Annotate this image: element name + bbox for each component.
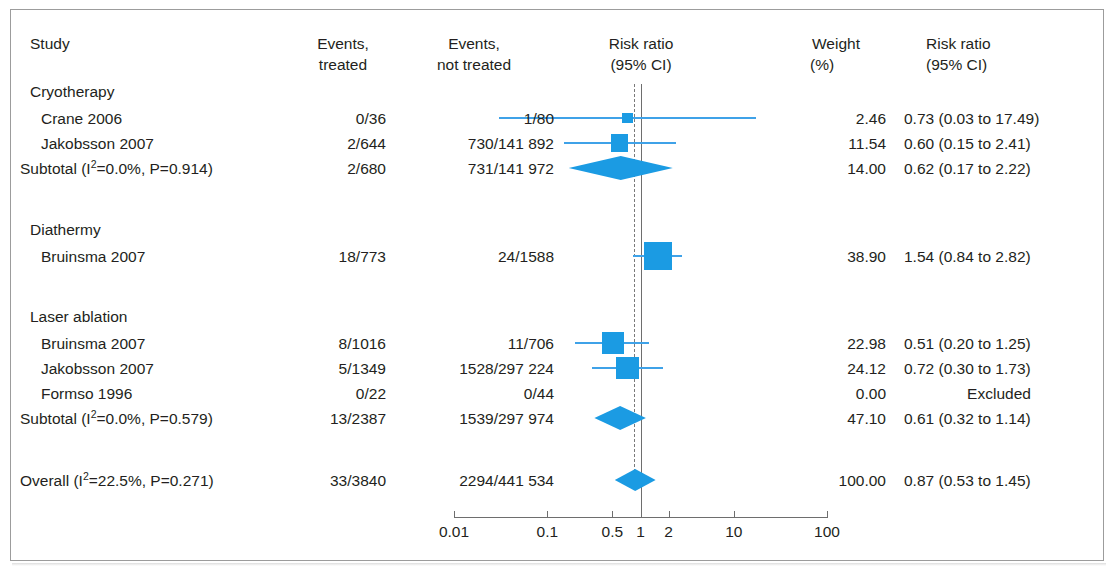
header-weight-line2: (%) — [810, 57, 834, 73]
rr-formso-1996-excluded: Excluded — [904, 386, 1094, 402]
subtotal-weight-cryo: 14.00 — [806, 161, 886, 177]
study-label-bruinsma-2007-diathermy: Bruinsma 2007 — [41, 249, 145, 265]
events-not-treated-jakobsson-2007-cryo: 730/141 892 — [394, 136, 554, 152]
events-treated-crane-2006: 0/36 — [300, 111, 386, 127]
subtotal-label-pre-laser: Subtotal (I — [20, 410, 91, 427]
header-weight-line1: Weight — [786, 36, 886, 52]
x-axis-tick — [454, 511, 455, 518]
x-axis-tick — [669, 511, 670, 518]
weight-formso-1996: 0.00 — [806, 386, 886, 402]
header-events-treated-line2: treated — [300, 57, 386, 73]
weight-crane-2006: 2.46 — [806, 111, 886, 127]
events-not-treated-formso-1996: 0/44 — [394, 386, 554, 402]
x-axis-tick-label: 0.5 — [602, 523, 624, 541]
overall-label-post: =22.5%, P=0.271) — [89, 472, 214, 489]
events-treated-bruinsma-2007-diathermy: 18/773 — [300, 249, 386, 265]
group-heading-laser-ablation: Laser ablation — [30, 309, 127, 325]
rr-jakobsson-2007-laser: 0.72 (0.30 to 1.73) — [904, 361, 1094, 377]
overall-weight: 100.00 — [806, 473, 886, 489]
header-events-treated-line1: Events, — [300, 36, 386, 52]
overall-rr: 0.87 (0.53 to 1.45) — [904, 473, 1094, 489]
header-study: Study — [30, 36, 70, 52]
study-label-jakobsson-2007-laser: Jakobsson 2007 — [41, 361, 154, 377]
events-treated-formso-1996: 0/22 — [300, 386, 386, 402]
group-heading-diathermy: Diathermy — [30, 222, 101, 238]
study-label-formso-1996: Formso 1996 — [41, 386, 132, 402]
subtotal-events-not-treated-laser: 1539/297 974 — [394, 411, 554, 427]
study-label-jakobsson-2007-cryo: Jakobsson 2007 — [41, 136, 154, 152]
study-label-bruinsma-2007-laser: Bruinsma 2007 — [41, 336, 145, 352]
forest-plot-figure: Study Events, treated Events, not treate… — [0, 0, 1118, 580]
overall-label: Overall (I2=22.5%, P=0.271) — [20, 473, 214, 489]
events-treated-jakobsson-2007-laser: 5/1349 — [300, 361, 386, 377]
study-label-crane-2006: Crane 2006 — [41, 111, 122, 127]
x-axis-tick-label: 2 — [664, 523, 673, 541]
events-not-treated-bruinsma-2007-diathermy: 24/1588 — [394, 249, 554, 265]
x-axis-tick-label: 0.01 — [439, 523, 469, 541]
header-plot-line2: (95% CI) — [561, 57, 721, 73]
x-axis-tick — [734, 511, 735, 518]
header-events-not-treated-line1: Events, — [394, 36, 554, 52]
x-axis-tick-label: 10 — [725, 523, 742, 541]
subtotal-weight-laser: 47.10 — [806, 411, 886, 427]
weight-jakobsson-2007-cryo: 11.54 — [806, 136, 886, 152]
subtotal-label-cryotherapy: Subtotal (I2=0.0%, P=0.914) — [20, 161, 213, 177]
x-axis-tick-label: 0.1 — [537, 523, 559, 541]
overall-label-pre: Overall (I — [20, 472, 83, 489]
subtotal-label-laser: Subtotal (I2=0.0%, P=0.579) — [20, 411, 213, 427]
weight-jakobsson-2007-laser: 24.12 — [806, 361, 886, 377]
subtotal-rr-laser: 0.61 (0.32 to 1.14) — [904, 411, 1094, 427]
subtotal-events-treated-cryo: 2/680 — [300, 161, 386, 177]
x-axis-tick — [547, 511, 548, 518]
subtotal-label-pre-cryo: Subtotal (I — [20, 160, 91, 177]
x-axis-tick-label: 100 — [814, 523, 840, 541]
events-not-treated-bruinsma-2007-laser: 11/706 — [394, 336, 554, 352]
x-axis-tick-label: 1 — [636, 523, 645, 541]
header-plot-line1: Risk ratio — [561, 36, 721, 52]
subtotal-label-post-laser: =0.0%, P=0.579) — [97, 410, 213, 427]
subtotal-events-treated-laser: 13/2387 — [300, 411, 386, 427]
rr-jakobsson-2007-cryo: 0.60 (0.15 to 2.41) — [904, 136, 1094, 152]
x-axis-tick — [641, 511, 642, 518]
events-not-treated-jakobsson-2007-laser: 1528/297 224 — [394, 361, 554, 377]
header-rr-line2: (95% CI) — [926, 57, 987, 73]
subtotal-rr-cryo: 0.62 (0.17 to 2.22) — [904, 161, 1094, 177]
events-not-treated-crane-2006: 1/80 — [394, 111, 554, 127]
x-axis-tick — [827, 511, 828, 518]
overall-events-treated: 33/3840 — [300, 473, 386, 489]
rr-bruinsma-2007-diathermy: 1.54 (0.84 to 2.82) — [904, 249, 1094, 265]
x-axis-tick — [612, 511, 613, 518]
weight-bruinsma-2007-diathermy: 38.90 — [806, 249, 886, 265]
events-treated-jakobsson-2007-cryo: 2/644 — [300, 136, 386, 152]
header-rr-line1: Risk ratio — [926, 36, 991, 52]
header-events-not-treated-line2: not treated — [394, 57, 554, 73]
rr-bruinsma-2007-laser: 0.51 (0.20 to 1.25) — [904, 336, 1094, 352]
figure-shadow — [12, 563, 1106, 566]
weight-bruinsma-2007-laser: 22.98 — [806, 336, 886, 352]
rr-crane-2006: 0.73 (0.03 to 17.49) — [904, 111, 1094, 127]
events-treated-bruinsma-2007-laser: 8/1016 — [300, 336, 386, 352]
group-heading-cryotherapy: Cryotherapy — [30, 84, 114, 100]
overall-events-not-treated: 2294/441 534 — [394, 473, 554, 489]
subtotal-events-not-treated-cryo: 731/141 972 — [394, 161, 554, 177]
subtotal-label-post-cryo: =0.0%, P=0.914) — [97, 160, 213, 177]
